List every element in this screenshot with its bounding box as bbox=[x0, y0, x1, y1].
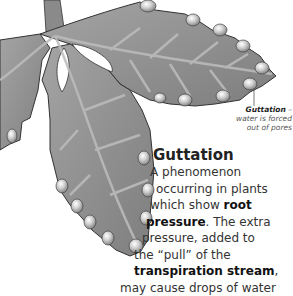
body-text-run: occurring in plants bbox=[156, 182, 268, 196]
key-term: root bbox=[224, 198, 252, 212]
guttation-callout: Guttation – water is forced out of pores bbox=[226, 105, 292, 132]
callout-description-line1: water is forced bbox=[226, 114, 292, 123]
body-text-run: the “pull” of the bbox=[134, 248, 231, 262]
body-line: may cause drops of water bbox=[120, 280, 292, 296]
body-text-run: . The extra bbox=[206, 215, 271, 229]
body-line: the “pull” of the bbox=[120, 247, 292, 264]
section-heading: Guttation bbox=[153, 146, 234, 164]
key-term: transpiration stream bbox=[134, 264, 275, 278]
key-term: pressure bbox=[146, 215, 206, 229]
body-text-run: A phenomenon bbox=[150, 165, 241, 179]
body-line: pressure, added to bbox=[120, 230, 292, 247]
section-body: A phenomenonoccurring in plantswhich sho… bbox=[120, 164, 292, 296]
body-text-run: may cause drops of water bbox=[120, 281, 276, 295]
callout-term: Guttation bbox=[245, 105, 285, 114]
body-text-run: which show bbox=[150, 198, 224, 212]
body-line: A phenomenon bbox=[120, 164, 292, 181]
callout-description-line2: out of pores bbox=[226, 123, 292, 132]
body-text-run: , bbox=[275, 264, 279, 278]
body-line: transpiration stream, bbox=[120, 263, 292, 280]
body-line: occurring in plants bbox=[120, 181, 292, 198]
body-line: which show root bbox=[120, 197, 292, 214]
body-text-run: pressure, added to bbox=[142, 231, 255, 245]
body-line: pressure. The extra bbox=[120, 214, 292, 231]
callout-dash: – bbox=[286, 105, 292, 114]
